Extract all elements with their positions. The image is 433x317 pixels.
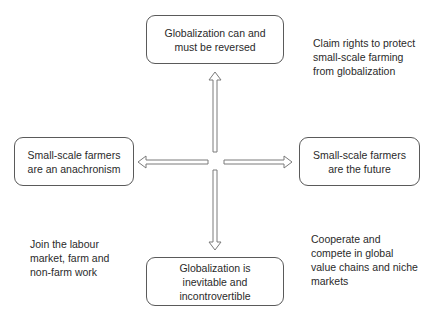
note-text-line: value chains and niche (311, 260, 418, 274)
note-text-line: Cooperate and (311, 232, 418, 246)
arrow-down-icon (209, 170, 221, 250)
box-text-line: Globalization can and (165, 26, 266, 40)
arrow-left-icon (138, 156, 208, 168)
box-globalization-inevitable: Globalization is inevitable and incontro… (146, 257, 284, 306)
box-text-line: Globalization is (179, 261, 250, 275)
arrow-up-icon (209, 72, 221, 152)
box-text-line: Small-scale farmers (28, 148, 121, 162)
note-text-line: non-farm work (30, 265, 109, 279)
note-text-line: Join the labour (30, 237, 109, 251)
note-join-labour-market: Join the labour market, farm and non-far… (30, 237, 109, 279)
note-claim-rights: Claim rights to protect small-scale farm… (313, 36, 415, 78)
note-text-line: from globalization (313, 64, 415, 78)
box-text-line: are an anachronism (28, 162, 121, 176)
box-globalization-reversed: Globalization can and must be reversed (146, 15, 284, 64)
arrow-right-icon (224, 156, 292, 168)
note-text-line: Claim rights to protect (313, 36, 415, 50)
box-text-line: Small-scale farmers (313, 148, 406, 162)
note-cooperate-compete: Cooperate and compete in global value ch… (311, 232, 418, 288)
note-text-line: small-scale farming (313, 50, 415, 64)
box-text-line: incontrovertible (179, 289, 250, 303)
box-farmers-anachronism: Small-scale farmers are an anachronism (14, 137, 134, 186)
note-text-line: market, farm and (30, 251, 109, 265)
note-text-line: markets (311, 274, 418, 288)
box-text-line: inevitable and (179, 275, 250, 289)
box-farmers-future: Small-scale farmers are the future (299, 137, 420, 186)
box-text-line: are the future (313, 162, 406, 176)
box-text-line: must be reversed (165, 40, 266, 54)
note-text-line: compete in global (311, 246, 418, 260)
